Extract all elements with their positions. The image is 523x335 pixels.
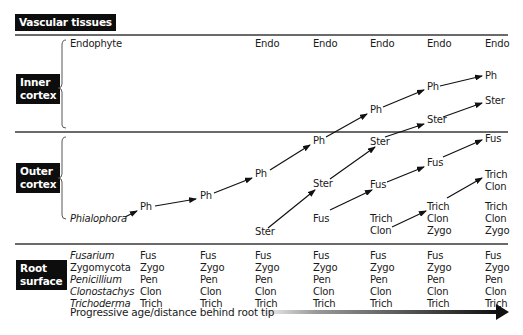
surface-col-5: Fus Zygo Pen Clon Trich (370, 250, 394, 310)
clon-text: Clon (313, 286, 337, 298)
clon-text: Clon (485, 181, 507, 193)
endo-col4: Endo (313, 38, 337, 50)
outer-cortex-bracket (58, 137, 66, 219)
trich-text: Trich (485, 169, 507, 181)
clon-text: Clon (370, 286, 394, 298)
surface-col-1: Fus Zygo Pen Clon Trich (140, 250, 164, 310)
ph-node-5: Ph (370, 104, 382, 116)
surface-col-6: Fus Zygo Pen Clon Trich (427, 250, 451, 310)
trich-clon-group-col5: Trich Clon (370, 213, 392, 237)
root-surface-taxa: Fusarium Zygomycota Penicillium Clonosta… (70, 250, 134, 310)
ster-node-4: Ster (427, 114, 447, 126)
pen-text: Pen (370, 274, 394, 286)
fus-text: Fus (255, 250, 279, 262)
fus-text: Fus (313, 250, 337, 262)
trich-text: Trich (313, 298, 337, 310)
trich-clon-zygo-group-col7-lower: Trich Clon Zygo (485, 201, 509, 237)
inner-cortex-bracket (58, 40, 66, 128)
zygo-text: Zygo (427, 262, 451, 274)
trich-text: Trich (485, 298, 509, 310)
ph-node-3: Ph (255, 168, 267, 180)
trich-clon-group-col7-upper: Trich Clon (485, 169, 507, 193)
clon-text: Clon (485, 286, 509, 298)
ster-node-1: Ster (255, 226, 275, 238)
ph-node-6: Ph (427, 81, 439, 93)
fus-node-1: Fus (313, 213, 329, 225)
surface-col-2: Fus Zygo Pen Clon Trich (200, 250, 224, 310)
zygo-text: Zygo (140, 262, 164, 274)
ph-node-2: Ph (200, 190, 212, 202)
taxon-fusarium: Fusarium (70, 250, 134, 262)
clon-text: Clon (255, 286, 279, 298)
fus-text: Fus (485, 250, 509, 262)
ph-node-1: Ph (140, 201, 152, 213)
progression-axis-label: Progressive age/distance behind root tip (70, 306, 274, 318)
clon-text: Clon (140, 286, 164, 298)
pen-text: Pen (255, 274, 279, 286)
fus-text: Fus (200, 250, 224, 262)
ster-node-2: Ster (313, 178, 333, 190)
zygo-text: Zygo (370, 262, 394, 274)
surface-col-4: Fus Zygo Pen Clon Trich (313, 250, 337, 310)
endo-col5: Endo (370, 38, 394, 50)
clon-text: Clon (427, 213, 451, 225)
pen-text: Pen (313, 274, 337, 286)
clon-text: Clon (485, 213, 509, 225)
trich-text: Trich (427, 201, 451, 213)
trich-text: Trich (370, 298, 394, 310)
endo-col6: Endo (427, 38, 451, 50)
pen-text: Pen (200, 274, 224, 286)
phialophora-label: Phialophora (70, 213, 127, 225)
surface-col-3: Fus Zygo Pen Clon Trich (255, 250, 279, 310)
clon-text: Clon (370, 225, 392, 237)
zygo-text: Zygo (313, 262, 337, 274)
ph-node-7: Ph (485, 70, 497, 82)
ph-node-4: Ph (313, 135, 325, 147)
clon-text: Clon (200, 286, 224, 298)
fus-node-2: Fus (370, 179, 386, 191)
zygo-text: Zygo (485, 262, 509, 274)
endo-col7: Endo (485, 38, 509, 50)
surface-col-7: Fus Zygo Pen Clon Trich (485, 250, 509, 310)
endophyte-label: Endophyte (70, 38, 122, 50)
fus-node-3: Fus (427, 157, 443, 169)
pen-text: Pen (140, 274, 164, 286)
zygo-text: Zygo (255, 262, 279, 274)
ster-node-5: Ster (485, 95, 505, 107)
endo-col3: Endo (255, 38, 279, 50)
fus-text: Fus (370, 250, 394, 262)
taxon-penicillium: Penicillium (70, 274, 134, 286)
zygo-text: Zygo (200, 262, 224, 274)
ster-node-3: Ster (370, 136, 390, 148)
taxon-zygomycota: Zygomycota (70, 262, 134, 274)
trich-text: Trich (485, 201, 509, 213)
pen-text: Pen (485, 274, 509, 286)
taxon-clonostachys: Clonostachys (70, 286, 134, 298)
fus-text: Fus (140, 250, 164, 262)
zygo-text: Zygo (427, 225, 451, 237)
trich-text: Trich (370, 213, 392, 225)
trich-clon-zygo-group-col6: Trich Clon Zygo (427, 201, 451, 237)
pen-text: Pen (427, 274, 451, 286)
fus-text: Fus (427, 250, 451, 262)
fus-node-4: Fus (485, 133, 501, 145)
clon-text: Clon (427, 286, 451, 298)
zygo-text: Zygo (485, 225, 509, 237)
trich-text: Trich (427, 298, 451, 310)
